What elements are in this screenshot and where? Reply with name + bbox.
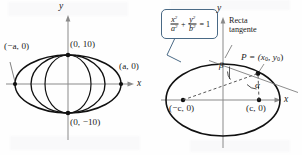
- x-axis-arrow: [128, 82, 135, 87]
- equation-plus-sign: +: [181, 20, 186, 29]
- label-focus-right: (c, 0): [246, 104, 266, 114]
- ellipse-figure: y x (−a, 0) (a, 0) (0, 10) (0, −10): [0, 0, 302, 155]
- point-vertex-left: [13, 82, 17, 86]
- equation-fraction-2: y2 b2: [188, 16, 196, 33]
- point-covertex-bottom: [66, 111, 71, 116]
- equation-equals-one: = 1: [199, 20, 210, 29]
- ellipse-equation-text: x2 a2 + y2 b2 = 1: [169, 16, 210, 33]
- label-focus-left: (−c, 0): [169, 104, 194, 114]
- panel-family-of-ellipses: y x (−a, 0) (a, 0) (0, 10) (0, −10): [0, 0, 151, 155]
- left-x-axis-label: x: [137, 78, 141, 88]
- right-y-axis-label: y: [217, 3, 221, 13]
- equation-denominator-1: a2: [170, 24, 178, 33]
- angle-beta-arc: [227, 72, 230, 80]
- leader-tangent-label: [225, 45, 232, 58]
- leader-point-p: [260, 64, 265, 71]
- angle-beta-label: β: [219, 60, 223, 70]
- label-vertex-left: (−a, 0): [4, 42, 29, 52]
- equation-numerator-2: y2: [188, 16, 196, 24]
- left-y-axis-label: y: [59, 1, 63, 11]
- label-covertex-bottom: (0, −10): [70, 118, 100, 128]
- focal-radius-left: [183, 74, 258, 101]
- panel-ellipse-with-tangent: x2 a2 + y2 b2 = 1 Recta tangente y x P =…: [151, 0, 302, 155]
- equation-fraction-1: x2 a2: [170, 16, 178, 33]
- left-diagram-svg: [0, 0, 151, 155]
- equation-numerator-1: x2: [170, 16, 178, 24]
- label-point-p-close: ): [280, 52, 283, 62]
- point-vertex-right: [119, 82, 123, 86]
- right-x-axis-label: x: [284, 94, 288, 104]
- label-covertex-top: (0, 10): [70, 40, 95, 50]
- y-axis-arrow: [66, 15, 71, 22]
- leader-vertex-left: [10, 62, 15, 82]
- ellipse-equation-callout: x2 a2 + y2 b2 = 1: [161, 9, 218, 39]
- label-point-p: P = (x0, y0): [241, 53, 283, 63]
- tangent-line-label-line2: tangente: [229, 25, 257, 34]
- y-axis-arrow: [221, 17, 226, 24]
- equation-denominator-2: b2: [188, 24, 196, 33]
- label-point-p-mid: , y: [268, 52, 277, 62]
- label-vertex-right: (a, 0): [119, 62, 139, 72]
- callout-pointer: [167, 38, 181, 62]
- label-point-p-main: P = (x: [241, 52, 265, 62]
- tangent-line-label-line1: Recta: [229, 16, 257, 25]
- tangent-line-label: Recta tangente: [229, 16, 257, 34]
- point-covertex-top: [66, 53, 71, 58]
- angle-alpha-label: α: [255, 80, 260, 90]
